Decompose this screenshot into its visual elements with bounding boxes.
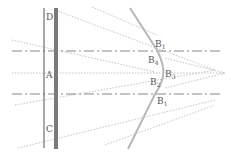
curved-surface xyxy=(128,8,163,149)
ray-converge-top xyxy=(165,58,225,73)
label-b4: B4 xyxy=(148,55,159,66)
ray-top-short xyxy=(92,7,157,35)
label-b2: B2 xyxy=(150,77,161,88)
label-b1-bottom: B1 xyxy=(157,96,167,107)
label-b1-top: B1 xyxy=(155,39,165,50)
ray-bottom-right xyxy=(105,105,215,145)
ray-upper-left xyxy=(12,40,155,72)
label-b3: B3 xyxy=(165,69,176,80)
label-a: A xyxy=(45,70,53,80)
label-d: D xyxy=(46,12,53,22)
ray-top xyxy=(55,10,215,70)
ray-lower-left xyxy=(15,70,215,105)
label-c: C xyxy=(46,124,53,134)
optics-diagram: D A C B1 B4 B3 B2 B1 xyxy=(0,0,233,161)
thick-vertical-bar xyxy=(54,8,58,149)
